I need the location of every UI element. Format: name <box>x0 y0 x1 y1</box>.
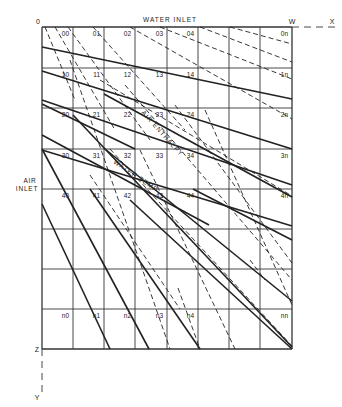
cell-label: 23 <box>156 111 164 118</box>
origin-label: 0 <box>36 18 40 25</box>
cell-label: 12 <box>124 71 132 78</box>
cell-label: 22 <box>124 111 132 118</box>
water-temp-line <box>160 27 292 79</box>
cell-label: 32 <box>124 152 132 159</box>
cell-label: 11 <box>93 71 100 78</box>
water-temp-line <box>93 27 185 130</box>
water-temp-line <box>205 110 292 305</box>
cell-label: 03 <box>156 30 164 37</box>
air-enthalpy-line <box>42 204 110 349</box>
cell-label: 34 <box>187 152 195 159</box>
cell-labels: 00010203040n10111213141n20212223242n3031… <box>62 30 289 319</box>
cell-label: 02 <box>124 30 132 37</box>
counterflow-grid-diagram: 00010203040n10111213141n20212223242n3031… <box>0 0 342 407</box>
cell-label: 1n <box>281 71 289 78</box>
cell-label: 33 <box>156 152 164 159</box>
water-temp-line <box>175 105 292 263</box>
w-label: W <box>289 18 296 25</box>
water-temp-line <box>45 27 75 100</box>
y-axis-label: Y <box>35 394 40 401</box>
cell-label: 3n <box>281 152 289 159</box>
cell-label: 41 <box>93 192 101 199</box>
cell-label: 24 <box>187 111 195 118</box>
air-enthalpy-line <box>130 200 292 349</box>
cell-label: n1 <box>93 312 101 319</box>
water-inlet-label: WATER INLET <box>143 16 197 23</box>
air-inlet-label-2: INLET <box>16 185 38 192</box>
cell-label: 00 <box>62 30 70 37</box>
cell-label: 44 <box>187 192 195 199</box>
cell-label: n2 <box>124 312 132 319</box>
cell-label: 42 <box>124 192 132 199</box>
cell-label: 20 <box>62 111 70 118</box>
cell-label: 14 <box>187 71 195 78</box>
cell-label: 10 <box>62 71 70 78</box>
x-axis-label: X <box>330 18 335 25</box>
cell-label: n3 <box>156 312 164 319</box>
water-temp-line <box>140 150 235 349</box>
cell-label: 4n <box>281 192 289 199</box>
cell-label: 01 <box>93 30 101 37</box>
cell-label: 31 <box>93 152 101 159</box>
cell-label: n4 <box>187 312 195 319</box>
cell-label: 30 <box>62 152 70 159</box>
cell-label: 21 <box>93 111 101 118</box>
cell-label: nn <box>281 312 289 319</box>
cell-label: n0 <box>62 312 70 319</box>
axes <box>42 27 335 395</box>
z-label: Z <box>35 346 40 353</box>
cell-label: 40 <box>62 192 70 199</box>
cell-label: 0n <box>281 30 289 37</box>
cell-label: 04 <box>187 30 195 37</box>
air-inlet-label-1: AIR <box>23 177 36 184</box>
water-temp-label: WATER TEMP <box>112 158 159 193</box>
cell-label: 13 <box>156 71 164 78</box>
cell-label: 2n <box>281 111 289 118</box>
water-temp-line <box>200 27 292 62</box>
cell-label: 43 <box>156 192 164 199</box>
